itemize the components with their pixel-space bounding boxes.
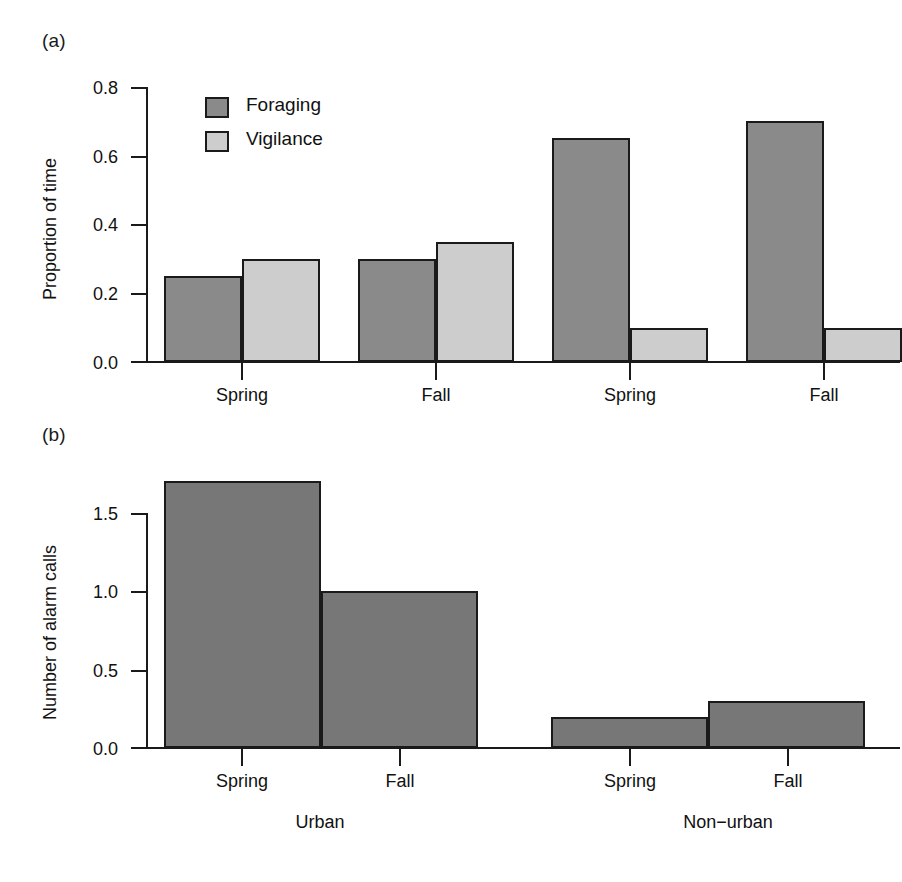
panel-b-xtick-label-3: Spring [570,771,690,792]
panel-a-ytick-mark-0.2 [131,293,147,295]
panel-a-xtick-mark-4 [823,363,825,380]
bar-b-urban-spring [164,481,321,748]
panel-a-xtick-mark-3 [629,363,631,380]
panel-b-xtick-mark-1 [241,749,243,766]
bar-a-nonurban-fall-vigilance [824,328,902,362]
panel-b-tag: (b) [42,424,66,446]
panel-b-ytick-mark-0.5 [131,670,147,672]
legend-label-vigilance: Vigilance [246,128,323,150]
bar-b-nonurban-fall [708,701,865,748]
panel-b-ytick-1.0: 1.0 [70,582,118,603]
panel-b-group-label-urban: Urban [260,812,380,833]
panel-a-ytick-mark-0.6 [131,156,147,158]
legend-swatch-vigilance [205,131,229,152]
panel-a-xtick-label-1: Spring [182,385,302,406]
bar-a-nonurban-fall-foraging [746,121,824,362]
bar-a-nonurban-spring-vigilance [630,328,708,362]
panel-b-xtick-label-2: Fall [340,771,460,792]
panel-b-ytick-mark-1.5 [131,513,147,515]
figure-caption-strip [0,868,900,882]
panel-b-ytick-mark-1.0 [131,591,147,593]
panel-b-y-axis-title: Number of alarm calls [40,545,61,720]
legend-label-foraging: Foraging [246,94,321,116]
bar-b-urban-fall [321,591,478,748]
panel-a-ytick-0.4: 0.4 [70,215,118,236]
panel-b-ytick-1.5: 1.5 [70,504,118,525]
panel-b-group-label-nonurban: Non−urban [648,812,808,833]
panel-a-ytick-0.8: 0.8 [70,78,118,99]
bar-b-nonurban-spring [551,717,708,748]
panel-a-x-axis-line [146,361,900,363]
panel-a-ytick-0.2: 0.2 [70,284,118,305]
panel-b-ytick-0.0: 0.0 [70,739,118,760]
panel-b-xtick-mark-2 [399,749,401,766]
panel-a-ytick-mark-0.8 [131,87,147,89]
bar-a-nonurban-spring-foraging [552,138,630,362]
panel-b-ytick-0.5: 0.5 [70,661,118,682]
panel-a-ytick-mark-0.0 [131,361,147,363]
panel-b-xtick-mark-3 [629,749,631,766]
panel-b-xtick-label-1: Spring [182,771,302,792]
panel-a-tag: (a) [42,30,66,52]
panel-a-xtick-mark-2 [435,363,437,380]
panel-a-xtick-label-2: Fall [376,385,496,406]
bar-a-urban-fall-foraging [358,259,436,362]
panel-a-ytick-mark-0.4 [131,224,147,226]
panel-b-xtick-mark-4 [787,749,789,766]
panel-b-ytick-mark-0.0 [131,747,147,749]
panel-a-xtick-label-3: Spring [570,385,690,406]
bar-a-urban-spring-foraging [164,276,242,362]
bar-a-urban-fall-vigilance [436,242,514,362]
panel-a-xtick-label-4: Fall [764,385,884,406]
panel-a-xtick-mark-1 [241,363,243,380]
bar-a-urban-spring-vigilance [242,259,320,362]
panel-a-ytick-0.0: 0.0 [70,353,118,374]
legend-swatch-foraging [205,97,229,118]
panel-a-ytick-0.6: 0.6 [70,147,118,168]
panel-a-y-axis-title: Proportion of time [40,158,61,300]
panel-b-y-axis-line [146,513,148,749]
panel-b-xtick-label-4: Fall [728,771,848,792]
